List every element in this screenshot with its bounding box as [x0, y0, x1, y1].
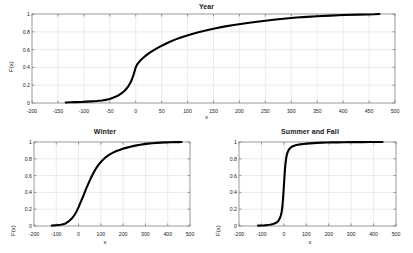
xtick-label: 150	[209, 108, 218, 114]
xtick-label: 450	[365, 108, 374, 114]
xtick-label: 500	[391, 108, 400, 114]
xtick-label: 50	[159, 108, 165, 114]
xtick-label: -50	[106, 108, 114, 114]
xtick-label: 400	[339, 108, 348, 114]
data-series-line-0	[52, 142, 182, 226]
ytick-label: 0.2	[226, 206, 237, 212]
xtick-label: 0	[77, 231, 80, 237]
ytick-label: 1	[19, 11, 30, 17]
ytick-label: 0.6	[226, 173, 237, 179]
xtick-label: 400	[163, 231, 172, 237]
xtick-label: 300	[347, 231, 356, 237]
plot-year: Year F(x) x -200-150-100-500501001502002…	[0, 0, 413, 126]
xtick-label: 250	[261, 108, 270, 114]
xtick-label: 100	[302, 231, 311, 237]
ytick-label: 0	[19, 100, 30, 106]
xtick-label: -100	[51, 231, 61, 237]
ytick-label: 1	[21, 139, 32, 145]
matlab-figure-canvas: Year F(x) x -200-150-100-500501001502002…	[0, 0, 413, 253]
xtick-label: 200	[235, 108, 244, 114]
xtick-label: -100	[79, 108, 89, 114]
plot-xlabel-winter: x	[10, 239, 200, 245]
xtick-label: 300	[141, 231, 150, 237]
ytick-label: 0.8	[19, 29, 30, 35]
xtick-label: 400	[369, 231, 378, 237]
plot-title-year: Year	[0, 3, 413, 10]
ytick-label: 0.6	[21, 173, 32, 179]
xtick-label: -200	[27, 108, 37, 114]
plot-summer-and-fall: Summer and Fall F(x) x -200-100010020030…	[207, 126, 413, 253]
plot-xlabel-summer-and-fall: x	[215, 239, 405, 245]
plot-xlabel-year: x	[0, 114, 413, 120]
plot-ylabel-summer-and-fall: F(x)	[215, 225, 221, 236]
ytick-label: 0.2	[19, 82, 30, 88]
ytick-label: 0.4	[21, 189, 32, 195]
xtick-label: 500	[392, 231, 401, 237]
xtick-label: 100	[97, 231, 106, 237]
xtick-label: 0	[134, 108, 137, 114]
plot-winter: Winter F(x) x -200-100010020030040050000…	[0, 126, 207, 253]
xtick-label: 350	[313, 108, 322, 114]
xtick-label: 200	[324, 231, 333, 237]
plot-axes-box	[34, 142, 190, 226]
ytick-label: 1	[226, 139, 237, 145]
ytick-label: 0.8	[21, 156, 32, 162]
plot-axes-box	[239, 142, 396, 226]
ytick-label: 0.4	[226, 189, 237, 195]
xtick-label: 100	[183, 108, 192, 114]
xtick-label: -200	[29, 231, 39, 237]
xtick-label: 200	[119, 231, 128, 237]
xtick-label: -100	[256, 231, 266, 237]
data-series-line-0	[66, 14, 380, 103]
xtick-label: -200	[234, 231, 244, 237]
plot-ylabel-winter: F(x)	[10, 225, 16, 236]
xtick-label: -150	[53, 108, 63, 114]
ytick-label: 0.4	[19, 64, 30, 70]
xtick-label: 300	[287, 108, 296, 114]
ytick-label: 0.8	[226, 156, 237, 162]
plot-title-summer-and-fall: Summer and Fall	[215, 128, 405, 135]
ytick-label: 0.2	[21, 206, 32, 212]
ytick-label: 0	[226, 223, 237, 229]
plot-ylabel-year: F(x)	[8, 61, 14, 72]
ytick-label: 0.6	[19, 47, 30, 53]
data-series-line-0	[258, 142, 382, 226]
ytick-label: 0	[21, 223, 32, 229]
xtick-label: 0	[282, 231, 285, 237]
xtick-label: 500	[186, 231, 195, 237]
plot-title-winter: Winter	[10, 128, 200, 135]
